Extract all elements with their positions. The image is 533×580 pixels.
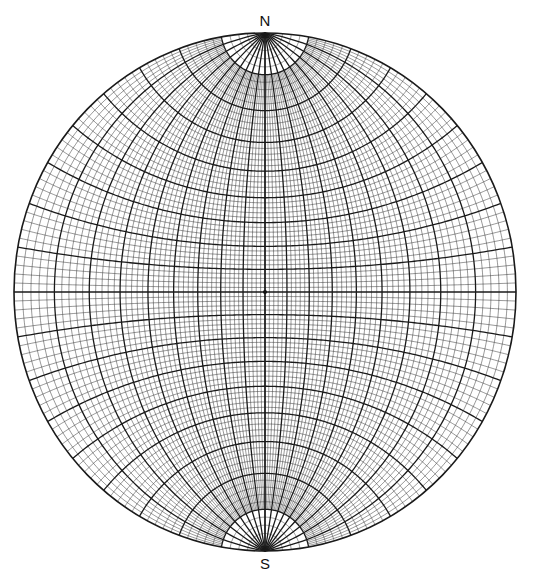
center-point	[263, 290, 267, 294]
south-label: S	[260, 556, 270, 571]
north-label: N	[260, 13, 271, 28]
stereonet	[0, 0, 533, 580]
